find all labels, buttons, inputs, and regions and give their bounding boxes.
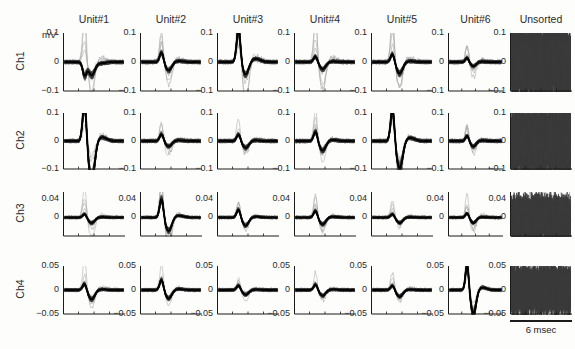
waveform-panel	[510, 266, 572, 314]
ytick-label: 0	[183, 284, 213, 294]
ytick-label: 0.1	[414, 27, 444, 37]
ytick-label: 0	[260, 135, 290, 145]
waveform-traces	[510, 266, 572, 315]
ytick-label: −0.1	[476, 163, 506, 173]
ytick-label: −0.05	[476, 308, 506, 318]
ytick-label: 0.04	[183, 193, 213, 203]
spike-waveform-figure: mVUnit#1Unit#2Unit#3Unit#4Unit#5Unit#6Un…	[0, 0, 575, 349]
row-label-ch4: Ch4	[14, 275, 26, 303]
ytick-label: 0.1	[183, 27, 213, 37]
ytick-label: 0.1	[476, 27, 506, 37]
ytick-label: 0	[414, 56, 444, 66]
ytick-label: 0.1	[29, 107, 59, 117]
column-title-unit2: Unit#2	[140, 13, 202, 25]
ytick-label: −0.1	[29, 163, 59, 173]
waveform-traces	[510, 113, 572, 170]
ytick-label: −0.1	[337, 163, 367, 173]
ytick-label: 0.04	[106, 193, 136, 203]
ytick-label: −0.1	[337, 85, 367, 95]
ytick-label: 0	[337, 56, 367, 66]
ytick-label: 0	[106, 211, 136, 221]
ytick-label: 0.1	[260, 27, 290, 37]
waveform-traces	[510, 33, 572, 92]
scalebar-line	[510, 320, 572, 322]
ytick-label: 0	[260, 211, 290, 221]
ytick-label: 0.1	[183, 107, 213, 117]
ytick-label: 0	[106, 56, 136, 66]
ytick-label: 0	[414, 211, 444, 221]
ytick-label: 0	[476, 135, 506, 145]
waveform-traces	[510, 192, 572, 237]
scalebar: 6 msec	[510, 320, 572, 344]
waveform-panel	[510, 33, 572, 91]
ytick-label: 0.04	[476, 193, 506, 203]
ytick-label: 0.1	[106, 107, 136, 117]
ytick-label: −0.1	[29, 85, 59, 95]
ytick-label: 0	[337, 284, 367, 294]
scalebar-label: 6 msec	[510, 324, 572, 335]
ytick-label: −0.1	[183, 85, 213, 95]
ytick-label: 0	[476, 56, 506, 66]
ytick-label: 0.05	[476, 260, 506, 270]
ytick-label: 0	[337, 135, 367, 145]
ytick-label: 0.04	[29, 193, 59, 203]
ytick-label: −0.1	[106, 85, 136, 95]
ytick-label: 0.1	[337, 27, 367, 37]
ytick-label: 0.04	[337, 193, 367, 203]
row-label-ch3: Ch3	[14, 199, 26, 227]
ytick-label: 0	[106, 135, 136, 145]
ytick-label: −0.05	[260, 308, 290, 318]
ytick-label: 0.1	[29, 27, 59, 37]
ytick-label: 0	[414, 284, 444, 294]
ytick-label: 0.04	[414, 193, 444, 203]
ytick-label: 0	[183, 135, 213, 145]
ytick-label: 0.05	[106, 260, 136, 270]
ytick-label: −0.1	[260, 163, 290, 173]
ytick-label: 0.05	[29, 260, 59, 270]
ytick-label: 0.1	[106, 27, 136, 37]
column-title-unit5: Unit#5	[371, 13, 433, 25]
waveform-panel	[510, 192, 572, 236]
ytick-label: 0	[476, 284, 506, 294]
ytick-label: −0.1	[414, 85, 444, 95]
ytick-label: −0.1	[476, 85, 506, 95]
row-label-ch2: Ch2	[14, 126, 26, 154]
ytick-label: 0	[337, 211, 367, 221]
ytick-label: −0.05	[106, 308, 136, 318]
ytick-label: 0	[183, 211, 213, 221]
ytick-label: 0.05	[183, 260, 213, 270]
ytick-label: 0.04	[260, 193, 290, 203]
ytick-label: 0.1	[476, 107, 506, 117]
ytick-label: 0	[183, 56, 213, 66]
ytick-label: 0	[29, 284, 59, 294]
ytick-label: 0.05	[260, 260, 290, 270]
column-title-unit4: Unit#4	[294, 13, 356, 25]
ytick-label: 0	[260, 56, 290, 66]
ytick-label: −0.05	[29, 308, 59, 318]
ytick-label: 0.1	[260, 107, 290, 117]
ytick-label: −0.05	[337, 308, 367, 318]
ytick-label: 0	[106, 284, 136, 294]
ytick-label: −0.1	[260, 85, 290, 95]
ytick-label: 0	[29, 211, 59, 221]
ytick-label: −0.05	[414, 308, 444, 318]
ytick-label: 0	[414, 135, 444, 145]
column-title-unit6: Unit#6	[448, 13, 503, 25]
waveform-panel	[510, 113, 572, 169]
ytick-label: −0.1	[106, 163, 136, 173]
column-title-unit3: Unit#3	[217, 13, 279, 25]
ytick-label: 0	[29, 56, 59, 66]
ytick-label: 0.1	[414, 107, 444, 117]
ytick-label: 0	[29, 135, 59, 145]
column-title-unsorted: Unsorted	[510, 13, 572, 25]
row-label-ch1: Ch1	[14, 47, 26, 75]
ytick-label: 0.05	[414, 260, 444, 270]
ytick-label: 0	[260, 284, 290, 294]
ytick-label: 0.05	[337, 260, 367, 270]
ytick-label: −0.1	[183, 163, 213, 173]
ytick-label: 0.1	[337, 107, 367, 117]
ytick-label: −0.05	[183, 308, 213, 318]
column-title-unit1: Unit#1	[63, 13, 125, 25]
ytick-label: 0	[476, 211, 506, 221]
ytick-label: −0.1	[414, 163, 444, 173]
